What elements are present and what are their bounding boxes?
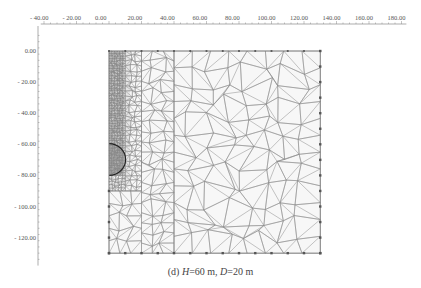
y-tick-label: - 80.00: [18, 171, 36, 178]
y-tick-label: - 20.00: [18, 78, 36, 85]
caption-h-value: =60 m,: [189, 266, 217, 277]
mesh-elements: [109, 51, 320, 253]
x-tick-label: 100.00: [258, 14, 276, 21]
x-tick-label: 180.00: [388, 14, 406, 21]
y-tick-label: - 100.00: [14, 203, 36, 210]
figure-caption: (d) H=60 m, D=20 m: [0, 266, 421, 277]
x-tick-label: 80.00: [225, 14, 240, 21]
caption-prefix: (d): [168, 266, 180, 277]
x-tick-label: 40.00: [160, 14, 175, 21]
mesh-plot: [0, 0, 421, 288]
finite-element-mesh-figure: - 40.00- 20.000.0020.0040.0060.0080.0010…: [0, 0, 421, 288]
x-tick-label: 0.00: [95, 14, 106, 21]
y-tick-label: 0.00: [25, 47, 36, 54]
y-tick-label: - 40.00: [18, 109, 36, 116]
y-tick-label: - 60.00: [18, 140, 36, 147]
x-tick-label: 140.00: [323, 14, 341, 21]
x-tick-label: 60.00: [193, 14, 208, 21]
x-tick-label: - 20.00: [63, 14, 81, 21]
x-tick-label: 160.00: [355, 14, 373, 21]
x-tick-label: - 40.00: [30, 14, 48, 21]
caption-d-value: =20 m: [227, 266, 253, 277]
x-tick-label: 120.00: [290, 14, 308, 21]
y-tick-label: - 120.00: [14, 234, 36, 241]
x-tick-label: 20.00: [128, 14, 143, 21]
